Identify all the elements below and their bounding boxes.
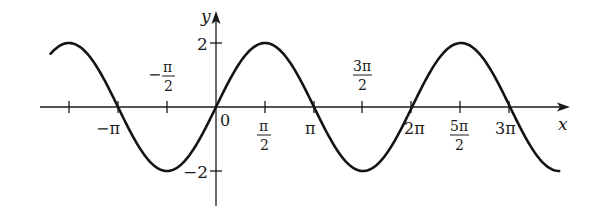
x-tick-label-pi: π bbox=[305, 119, 316, 138]
y-tick-label-2: 2 bbox=[197, 34, 208, 54]
numerator: π bbox=[259, 118, 268, 134]
y-tick-label-neg-2: −2 bbox=[183, 162, 208, 182]
x-tick-label-3pi: 3π bbox=[495, 119, 516, 138]
x-tick-label-pi-2: π 2 bbox=[257, 118, 271, 153]
x-tick-label-2pi: 2π bbox=[404, 119, 425, 138]
numerator: 5π bbox=[450, 118, 468, 134]
denominator: 2 bbox=[358, 77, 367, 93]
x-tick-label-neg-pi-2: − π 2 bbox=[148, 59, 175, 94]
x-axis-label: x bbox=[558, 114, 568, 134]
y-axis-label: y bbox=[200, 6, 211, 26]
neg-sign: − bbox=[148, 65, 161, 84]
x-tick-label-neg-pi: −π bbox=[96, 119, 120, 138]
sine-graph: y x 2 −2 0 −π − π 2 π 2 π 3π 2 2π 5π 2 3… bbox=[0, 0, 599, 216]
origin-label: 0 bbox=[220, 111, 230, 130]
x-tick-label-5pi-2: 5π 2 bbox=[450, 118, 469, 153]
denominator: 2 bbox=[164, 78, 173, 94]
x-tick-label-3pi-2: 3π 2 bbox=[353, 58, 372, 93]
denominator: 2 bbox=[260, 137, 269, 153]
numerator: π bbox=[163, 59, 172, 75]
denominator: 2 bbox=[455, 137, 464, 153]
numerator: 3π bbox=[353, 58, 371, 74]
